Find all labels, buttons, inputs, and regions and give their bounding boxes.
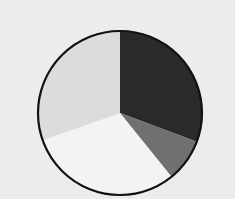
pie-chart <box>0 0 235 199</box>
pie-chart-canvas <box>0 0 235 199</box>
